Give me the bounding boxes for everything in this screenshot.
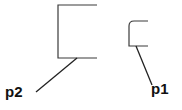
leader-line-p2: [36, 58, 77, 92]
bracket-p2-outline: [58, 5, 97, 58]
leader-line-p1: [136, 46, 152, 85]
label-p2: p2: [5, 83, 23, 100]
label-p1: p1: [151, 80, 169, 97]
bracket-p2: p2: [5, 5, 97, 100]
bracket-p1-outline: [129, 21, 148, 46]
bracket-p1: p1: [129, 21, 169, 97]
diagram-canvas: p2 p1: [0, 0, 182, 110]
